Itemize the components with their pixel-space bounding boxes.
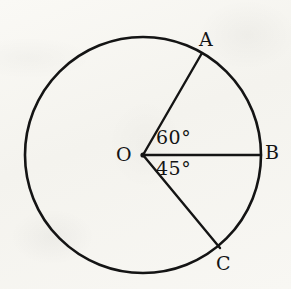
circle-diagram-figure: [0, 0, 291, 289]
point-label-c: C: [216, 254, 231, 273]
center-point-marker: [140, 152, 145, 157]
point-label-a: A: [199, 30, 213, 49]
point-label-b: B: [265, 143, 279, 162]
angle-label-aob: 60°: [156, 128, 191, 147]
angle-label-boc: 45°: [156, 159, 191, 178]
diagram-canvas: O A B C 60° 45°: [0, 0, 291, 289]
point-label-o: O: [116, 145, 132, 164]
